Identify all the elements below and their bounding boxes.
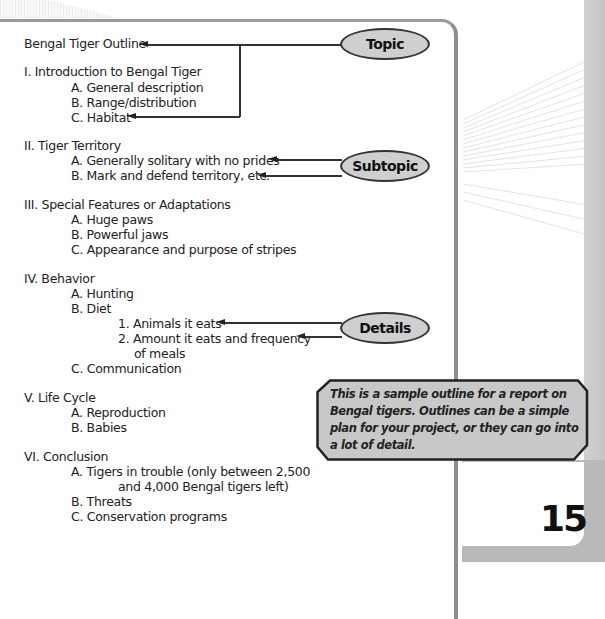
section-heading: IV. Behavior xyxy=(24,271,94,286)
subtopic-label: Subtopic xyxy=(340,150,430,182)
outline-item: B. Diet xyxy=(71,301,111,316)
outline-subitem-continued: of meals xyxy=(134,346,185,361)
outline-item: A. General description xyxy=(71,80,203,95)
section-heading: II. Tiger Territory xyxy=(24,138,121,153)
callout-box: This is a sample outline for a report on… xyxy=(316,379,589,461)
outline-item: C. Conservation programs xyxy=(71,509,227,524)
decorative-line-pattern xyxy=(463,60,588,240)
arrow-left-icon xyxy=(139,41,148,47)
details-connector xyxy=(304,336,342,338)
arrow-left-icon xyxy=(127,113,136,119)
details-label: Details xyxy=(340,312,430,344)
outline-subitem: 2. Amount it eats and frequency xyxy=(118,331,311,346)
topic-branch-connector xyxy=(239,44,241,117)
outline-item: B. Range/distribution xyxy=(71,95,196,110)
topic-label: Topic xyxy=(340,28,430,60)
outline-item: A. Hunting xyxy=(71,286,134,301)
outline-item: B. Threats xyxy=(71,494,132,509)
decorative-top-pattern xyxy=(0,0,120,18)
outline-item: C. Habitat xyxy=(71,110,131,125)
details-connector xyxy=(224,322,342,324)
outline-item: A. Generally solitary with no prides xyxy=(71,153,279,168)
arrow-left-icon xyxy=(257,172,266,178)
outline-item: C. Appearance and purpose of stripes xyxy=(71,242,296,257)
outline-title: Bengal Tiger Outline xyxy=(24,36,146,51)
section-heading: V. Life Cycle xyxy=(24,390,96,405)
section-heading: III. Special Features or Adaptations xyxy=(24,197,231,212)
arrow-left-icon xyxy=(216,319,225,325)
outline-item-continued: and 4,000 Bengal tigers left) xyxy=(118,479,289,494)
outline-item: A. Reproduction xyxy=(71,405,166,420)
subtopic-connector xyxy=(265,175,342,177)
topic-connector xyxy=(148,44,342,46)
outline-item: A. Tigers in trouble (only between 2,500 xyxy=(71,464,310,479)
outline-item: A. Huge paws xyxy=(71,212,153,227)
outline-item: B. Babies xyxy=(71,420,127,435)
callout-text: This is a sample outline for a report on… xyxy=(330,386,585,454)
outline-item: B. Mark and defend territory, etc. xyxy=(71,168,270,183)
outline-subitem: 1. Animals it eats xyxy=(118,316,221,331)
arrow-left-icon xyxy=(268,156,277,162)
arrow-left-icon xyxy=(296,333,305,339)
topic-habitat-connector xyxy=(135,116,240,118)
page-number: 15 xyxy=(540,498,586,539)
outline-item: C. Communication xyxy=(71,361,181,376)
section-heading: I. Introduction to Bengal Tiger xyxy=(24,64,201,79)
section-heading: VI. Conclusion xyxy=(24,449,108,464)
outline-item: B. Powerful jaws xyxy=(71,227,168,242)
subtopic-connector xyxy=(276,159,342,161)
